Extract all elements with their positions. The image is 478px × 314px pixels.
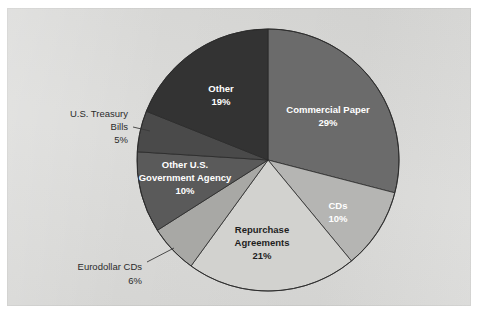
label-us-treasury-bills-line2: Bills: [111, 121, 129, 132]
pie-chart-figure: Commercial Paper 29% CDs 10% Repurchase …: [0, 0, 478, 314]
label-repurchase-agreements-value: 21%: [252, 250, 272, 261]
label-eurodollar-cds-value: 6%: [128, 275, 142, 286]
label-eurodollar-cds: Eurodollar CDs 6%: [78, 248, 174, 286]
label-other-us-government-agency-value: 10%: [175, 185, 195, 196]
label-commercial-paper-value: 29%: [318, 117, 338, 128]
label-other-text: Other: [208, 83, 234, 94]
label-cds-text: CDs: [328, 200, 347, 211]
label-other-us-government-agency-line2: Government Agency: [139, 172, 232, 183]
label-us-treasury-bills-value: 5%: [114, 134, 128, 145]
label-commercial-paper-text: Commercial Paper: [286, 104, 370, 115]
label-other-value: 19%: [211, 96, 231, 107]
label-other-us-government-agency-line1: Other U.S.: [162, 159, 208, 170]
label-eurodollar-cds-text: Eurodollar CDs: [78, 261, 143, 272]
label-us-treasury-bills: U.S. Treasury Bills 5%: [70, 108, 150, 145]
label-repurchase-agreements-line2: Agreements: [235, 237, 290, 248]
label-repurchase-agreements-line1: Repurchase: [235, 224, 289, 235]
leader-line-eurodollar-cds: [147, 248, 174, 262]
label-cds-value: 10%: [328, 213, 348, 224]
pie-chart-svg: Commercial Paper 29% CDs 10% Repurchase …: [0, 0, 478, 314]
label-us-treasury-bills-line1: U.S. Treasury: [70, 108, 128, 119]
